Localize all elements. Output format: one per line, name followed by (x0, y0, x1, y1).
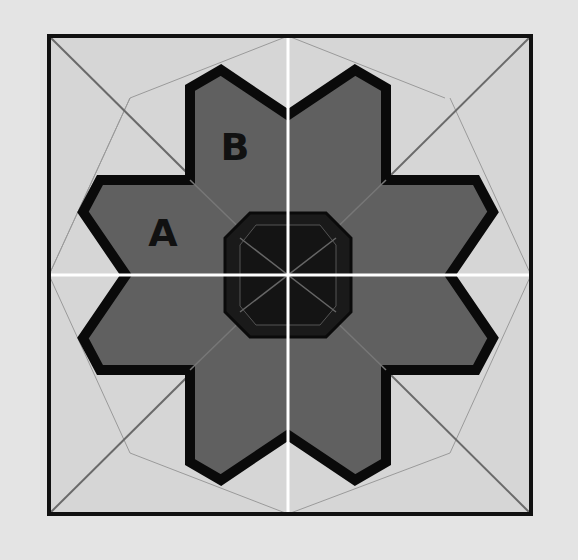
label-a: A (148, 211, 178, 255)
label-b: B (221, 125, 250, 169)
quilt-block-diagram: A B (0, 0, 578, 560)
